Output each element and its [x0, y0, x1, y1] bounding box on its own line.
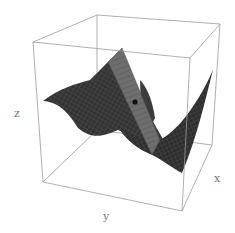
y-axis-label: y: [102, 210, 110, 223]
x-axis-label: x: [214, 172, 221, 185]
marked-point: [132, 99, 137, 104]
z-axis-label: z: [14, 107, 20, 120]
surface-plot: z x y: [0, 0, 235, 233]
